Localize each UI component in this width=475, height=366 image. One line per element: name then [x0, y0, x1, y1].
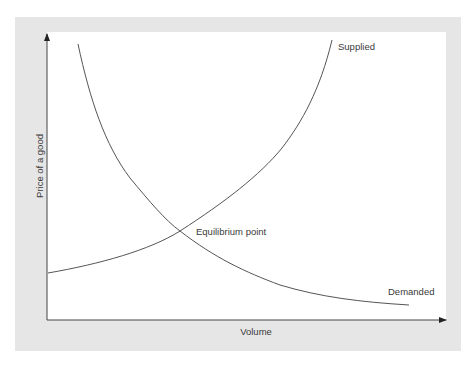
chart-svg	[0, 0, 475, 366]
demanded-label: Demanded	[388, 287, 434, 297]
equilibrium-label: Equilibrium point	[196, 227, 266, 237]
x-axis-label: Volume	[240, 327, 272, 337]
y-axis-label: Price of a good	[35, 134, 45, 198]
supplied-label: Supplied	[338, 42, 375, 52]
demand-curve	[78, 44, 409, 305]
